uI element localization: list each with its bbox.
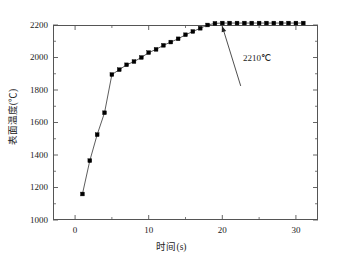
x-tick-label: 20 (207, 226, 237, 235)
y-tick-label: 2200 (14, 21, 48, 30)
y-tick-label: 2000 (14, 53, 48, 62)
y-tick-label: 1000 (14, 216, 48, 225)
x-tick-label: 0 (60, 226, 90, 235)
x-tick-label: 10 (134, 226, 164, 235)
x-tick-label: 30 (281, 226, 311, 235)
y-tick-label: 1800 (14, 86, 48, 95)
y-tick-label: 1200 (14, 183, 48, 192)
y-tick-label: 1400 (14, 151, 48, 160)
y-axis-title: 表面温度(℃) (5, 72, 19, 162)
peak-temperature-annotation: 2210℃ (243, 53, 271, 63)
chart-figure: 1000120014001600180020002200 0102030 时间(… (0, 0, 343, 261)
x-axis-title: 时间(s) (0, 239, 343, 253)
y-tick-label: 1600 (14, 118, 48, 127)
plot-area (53, 25, 318, 220)
